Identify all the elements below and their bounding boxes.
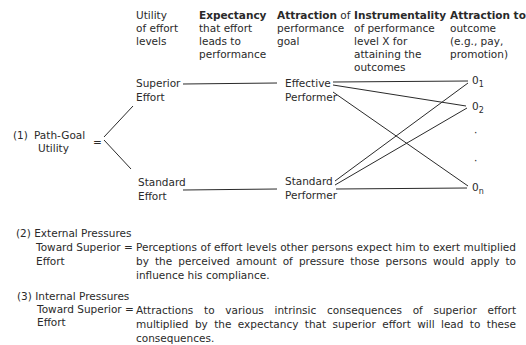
effective-performer-line1: Effective [285,77,337,91]
branch-to-superior-effort [104,106,133,137]
header-instrumentality: Instrumentality of performance level X f… [354,9,446,74]
eq3-label-line3: Effort [17,316,134,329]
header-attraction-goal: Attraction of performance goal [277,9,350,48]
standard-effort-line1: Standard [138,176,186,190]
eq2-label-line1: External Pressures [34,227,131,239]
header-utility-line1: Utility [136,9,178,22]
header-instrumentality-line2: level X for [354,35,446,48]
outcome-o1-base: 0 [472,74,479,86]
standard-to-standard-line [183,189,277,190]
header-outcome-line1: outcome [450,22,526,35]
header-attraction-outcome: Attraction to outcome (e.g., pay, promot… [450,9,526,61]
header-instrumentality-title: Instrumentality [354,9,446,21]
header-outcome-line2: (e.g., pay, [450,35,526,48]
eq3-label-line1: Internal Pressures [35,290,129,302]
effective-performer-line2: Performer [285,91,337,105]
eq3-equals: = [125,303,134,315]
eq3-number: (3) [17,290,32,302]
eq1-label: Path-Goal Utility [34,129,85,155]
outcome-o1-sub: 1 [479,80,484,89]
eq1-label-line2: Utility [34,142,85,155]
header-utility-line3: levels [136,35,178,48]
standard-performer-line2: Performer [285,189,337,203]
effective-to-o1-line [333,81,468,82]
eq2-label-line3: Effort [16,254,133,268]
header-expectancy-line1: that effort [199,22,266,35]
node-standard-performer: Standard Performer [285,175,337,202]
node-standard-effort: Standard Effort [138,176,186,203]
header-instrumentality-line4: outcomes [354,61,446,74]
header-expectancy: Expectancy that effort leads to performa… [199,9,266,61]
superior-effort-line2: Effort [136,91,180,105]
eq3-definition: Attractions to various intrinsic consequ… [136,303,516,345]
eq2-equals: = [124,241,133,253]
eq2-definition: Perceptions of effort levels other perso… [136,240,516,282]
header-utility: Utility of effort levels [136,9,178,48]
eq1-number: (1) [13,129,28,142]
branch-to-standard-effort [104,140,131,169]
eq2-label: (2) External Pressures Toward Superior =… [16,226,133,268]
outcome-o1: 01 [472,74,484,92]
effective-to-o2-line [333,85,466,106]
eq3-label-line2: Toward Superior [37,303,122,315]
node-superior-effort: Superior Effort [136,77,180,104]
header-outcome-line3: promotion) [450,48,526,61]
eq2-number: (2) [16,227,31,239]
outcome-on-sub: n [479,187,484,196]
header-utility-line2: of effort [136,22,178,35]
eq2-label-line2: Toward Superior [36,241,121,253]
header-outcome-title: Attraction to [450,9,526,21]
header-instrumentality-line3: attaining the [354,48,446,61]
eq1-label-line1: Path-Goal [34,129,85,142]
standard-to-o2-line [335,108,467,185]
header-expectancy-title: Expectancy [199,9,266,21]
header-attraction-line3: goal [277,35,350,48]
outcome-ellipsis-2: · [474,154,477,168]
eq3-label: (3) Internal Pressures Toward Superior =… [17,290,134,329]
standard-to-on-line [336,188,467,189]
outcome-ellipsis-1: · [474,126,477,140]
header-attraction-of: of [337,9,350,21]
outcome-o2-sub: 2 [479,106,484,115]
outcome-on: 0n [472,181,484,199]
standard-to-o1-line [335,83,468,181]
effective-to-on-line [333,92,468,186]
standard-performer-line1: Standard [285,175,337,189]
outcome-o2: 02 [472,100,484,118]
superior-effort-line1: Superior [136,77,180,91]
header-expectancy-line3: performance [199,48,266,61]
node-effective-performer: Effective Performer [285,77,337,104]
header-attraction-title: Attraction [277,9,337,21]
eq1-equals: = [93,136,102,149]
superior-to-effective-line [183,83,277,84]
header-instrumentality-line1: of performance [354,22,446,35]
header-attraction-line2: performance [277,22,350,35]
standard-effort-line2: Effort [138,190,186,204]
outcome-o2-base: 0 [472,100,479,112]
header-expectancy-line2: leads to [199,35,266,48]
outcome-on-base: 0 [472,181,479,193]
